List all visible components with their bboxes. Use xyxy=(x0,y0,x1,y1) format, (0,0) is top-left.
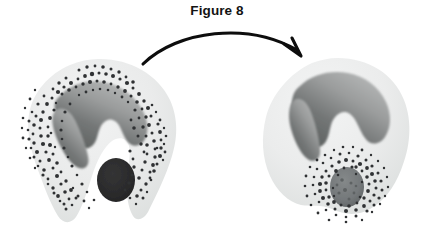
target-particle-before xyxy=(97,158,135,202)
figure-illustration xyxy=(0,0,434,234)
figure-container: Figure 8 xyxy=(0,0,434,234)
arrow-shaft xyxy=(143,33,297,64)
cell-before xyxy=(21,59,176,222)
transition-arrow xyxy=(143,33,301,64)
cell-after xyxy=(263,58,409,223)
